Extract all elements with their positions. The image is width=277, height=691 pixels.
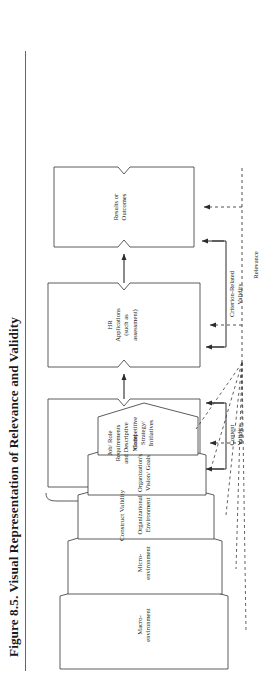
relevance-label: Relevance xyxy=(252,235,260,295)
hr-line-1: HR xyxy=(106,283,114,367)
competitive-line-3: Initiatives xyxy=(147,412,155,454)
macro-line-2: environment xyxy=(144,589,152,661)
orgenv-line-2: Environment xyxy=(144,491,152,539)
criterion-validity-label: Criterion-Related Validity xyxy=(228,245,244,343)
organizational-environment-label: Organizational Environment xyxy=(136,491,152,539)
orgenv-line-1: Organizational xyxy=(136,491,144,539)
criterion-validity-bracket xyxy=(212,241,226,347)
micro-line-2: environment xyxy=(144,536,152,590)
fan-line-macro xyxy=(242,363,246,631)
results-line-2: Outcomes xyxy=(120,167,128,247)
job-role-line-1: Job/ Role xyxy=(106,399,114,487)
figure-page: Figure 8.5. Visual Representation of Rel… xyxy=(0,0,277,691)
job-role-line-3: and Descriptive xyxy=(122,399,130,487)
criterion-validity-line-1: Criterion-Related xyxy=(228,245,236,343)
results-box-label: Results or Outcomes xyxy=(112,167,128,247)
job-role-line-2: Requirements xyxy=(114,399,122,487)
content-validity-label: Content Validity xyxy=(228,407,244,463)
results-line-1: Results or xyxy=(112,167,120,247)
content-validity-bracket xyxy=(212,403,226,469)
hr-line-2: Applications xyxy=(114,283,122,367)
organizations-vision-goals-label: Organization's Vision/ Goals xyxy=(136,451,152,495)
hr-applications-box-label: HR Applications (such as assessment) xyxy=(106,283,139,367)
content-validity-line-1: Content xyxy=(228,407,236,463)
micro-environment-label: Micro- environment xyxy=(136,536,152,590)
micro-line-1: Micro- xyxy=(136,536,144,590)
competitive-line-2: Strategy/ xyxy=(139,412,147,454)
macro-environment-label: Macro- environment xyxy=(136,589,152,661)
competitive-line-1: Competitive xyxy=(131,412,139,454)
vision-line-2: Vision/ Goals xyxy=(144,451,152,495)
macro-line-1: Macro- xyxy=(136,589,144,661)
hr-line-4: assessment) xyxy=(131,283,139,367)
criterion-validity-line-2: Validity xyxy=(236,245,244,343)
vision-line-1: Organization's xyxy=(136,451,144,495)
content-validity-line-2: Validity xyxy=(236,407,244,463)
hr-line-3: (such as xyxy=(122,283,130,367)
competitive-strategy-label: Competitive Strategy/ Initiatives xyxy=(131,412,156,454)
figure-canvas: Figure 8.5. Visual Representation of Rel… xyxy=(0,0,277,691)
construct-validity-label: Construct Validity xyxy=(118,490,126,541)
